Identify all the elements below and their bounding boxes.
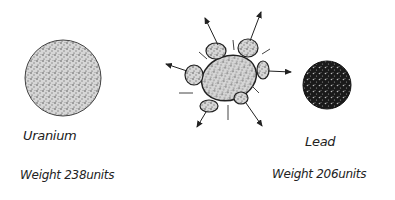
uranium-weight-label: Weight 238units (20, 168, 114, 182)
lead-atom (303, 61, 351, 109)
uranium-atom (25, 40, 101, 116)
lead-weight-label: Weight 206units (272, 167, 366, 181)
splitting-nucleus (166, 12, 291, 127)
uranium-label: Uranium (23, 128, 76, 143)
lead-label: Lead (305, 134, 335, 149)
